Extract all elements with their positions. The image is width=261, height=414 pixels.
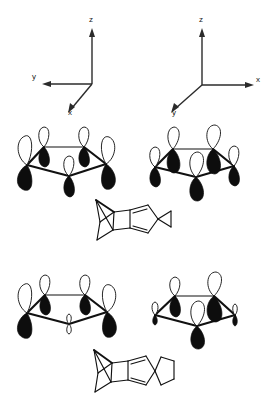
molecule-structure-bottom — [86, 344, 178, 400]
molecule-bonds-bottom — [94, 350, 174, 392]
y-axis-label-right: y — [172, 108, 176, 117]
p-orbital — [170, 277, 181, 317]
orbital-diagram-top-right — [140, 122, 260, 200]
x-axis-label-right: x — [256, 75, 260, 84]
axis-system-left: z y x — [28, 12, 138, 117]
z-axis-right — [199, 28, 205, 85]
x-axis-right — [202, 82, 254, 88]
orbital-diagram-bottom-right — [140, 270, 260, 348]
p-orbital — [64, 156, 75, 197]
y-axis-left — [42, 81, 92, 87]
orbital-figure: z y x z x y — [0, 0, 261, 414]
molecule-bonds-top — [96, 200, 171, 240]
p-orbital — [167, 127, 180, 173]
z-axis-left — [89, 28, 95, 84]
p-orbital — [207, 272, 222, 322]
axis-system-right: z x y — [158, 12, 261, 117]
orbital-diagram-bottom-left — [12, 272, 132, 350]
molecule-structure-top — [88, 192, 180, 248]
orbital-diagram-top-left — [12, 124, 132, 202]
y-axis-label-left: y — [32, 72, 36, 81]
x-axis-label-left: x — [68, 108, 72, 117]
z-axis-label-right: z — [199, 15, 203, 24]
z-axis-label-left: z — [89, 15, 93, 24]
